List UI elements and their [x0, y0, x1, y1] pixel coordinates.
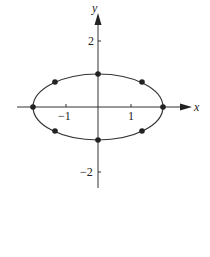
- y-tick-label-neg2: −2: [80, 165, 93, 179]
- y-tick-label-2: 2: [88, 34, 94, 48]
- point-right-vertex: [160, 104, 166, 110]
- x-tick-label-neg1: −1: [58, 109, 71, 123]
- point-top: [95, 71, 101, 77]
- point-lower-left: [52, 128, 58, 134]
- x-tick-label-1: 1: [128, 109, 134, 123]
- x-axis-label: x: [193, 100, 200, 114]
- point-left-vertex: [30, 104, 36, 110]
- point-upper-left: [52, 79, 58, 85]
- point-upper-right: [139, 79, 145, 85]
- point-lower-right: [139, 128, 145, 134]
- y-axis-label: y: [91, 1, 98, 15]
- point-bottom: [95, 137, 101, 143]
- x-axis-arrow-icon: [180, 104, 192, 111]
- ellipse-diagram: x y −1 1 2 −2: [0, 0, 210, 257]
